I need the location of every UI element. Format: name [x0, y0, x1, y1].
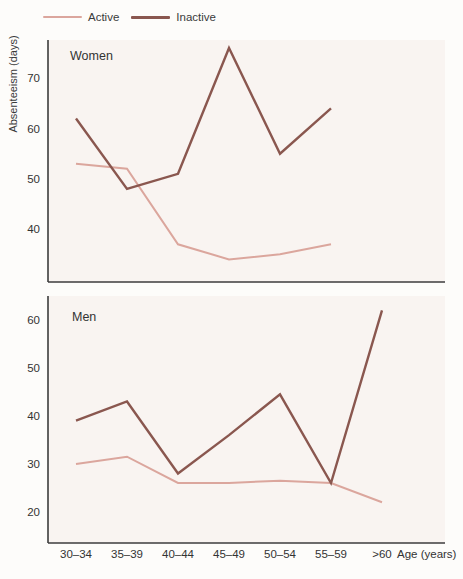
y-tick-label: 40	[27, 410, 40, 422]
y-tick-label: 20	[27, 506, 40, 518]
y-tick-label: 60	[27, 314, 40, 326]
y-tick-label: 50	[27, 362, 40, 374]
x-tick-label: 45–49	[213, 548, 245, 560]
x-tick-label: 55–59	[315, 548, 347, 560]
x-tick-label: 30–34	[60, 548, 93, 560]
panel-title: Women	[70, 49, 113, 63]
y-tick-label: 40	[27, 223, 40, 235]
y-tick-label: 70	[27, 72, 40, 84]
x-axis-label: Age (years)	[397, 548, 457, 560]
y-tick-label: 30	[27, 458, 40, 470]
plot-area	[48, 296, 445, 543]
x-tick-label: 50–54	[264, 548, 297, 560]
x-tick-label: 35–39	[111, 548, 143, 560]
x-tick-label: >60	[372, 548, 392, 560]
y-tick-label: 50	[27, 173, 40, 185]
panel-title: Men	[72, 310, 96, 324]
absenteeism-charts: 40506070Women2030405060Men30–3435–3940–4…	[0, 0, 463, 579]
x-tick-label: 40–44	[162, 548, 195, 560]
y-tick-label: 60	[27, 123, 40, 135]
